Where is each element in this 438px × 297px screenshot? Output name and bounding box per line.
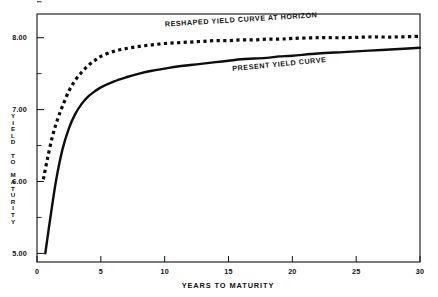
x-axis-ticks	[37, 256, 420, 262]
yield-curve-chart: 5.006.007.008.00 051015202530 YIELDTOMAT…	[0, 0, 438, 297]
x-tick-label-25: 25	[352, 267, 360, 276]
reshaped-curve-label: RESHAPED YIELD CURVE AT HORIZON	[164, 10, 317, 28]
y-axis-title: YIELDTOMATURITY	[10, 112, 16, 225]
x-tick-label-10: 10	[160, 267, 168, 276]
reshaped-yield-curve-line	[43, 36, 420, 179]
y-axis-title-letter: Y	[11, 218, 16, 225]
present-yield-curve-line	[45, 48, 420, 254]
x-axis-title: YEARS TO MATURITY	[182, 281, 275, 290]
x-tick-label-20: 20	[288, 267, 296, 276]
y-tick-label-8.00: 8.00	[12, 33, 27, 42]
y-axis-title-letter: D	[11, 138, 16, 145]
chart-canvas: 5.006.007.008.00 051015202530 YIELDTOMAT…	[0, 0, 438, 297]
y-axis-ticks	[37, 2, 44, 254]
chart-annotations: RESHAPED YIELD CURVE AT HORIZONPRESENT Y…	[164, 10, 326, 73]
x-tick-label-30: 30	[416, 267, 424, 276]
present-curve-label: PRESENT YIELD CURVE	[232, 55, 327, 73]
x-tick-label-0: 0	[35, 267, 39, 276]
y-tick-label-5.00: 5.00	[12, 249, 27, 258]
x-tick-label-15: 15	[224, 267, 232, 276]
x-tick-label-5: 5	[99, 267, 103, 276]
x-axis-tick-labels: 051015202530	[35, 267, 424, 276]
y-axis-title-letter: O	[11, 158, 16, 165]
